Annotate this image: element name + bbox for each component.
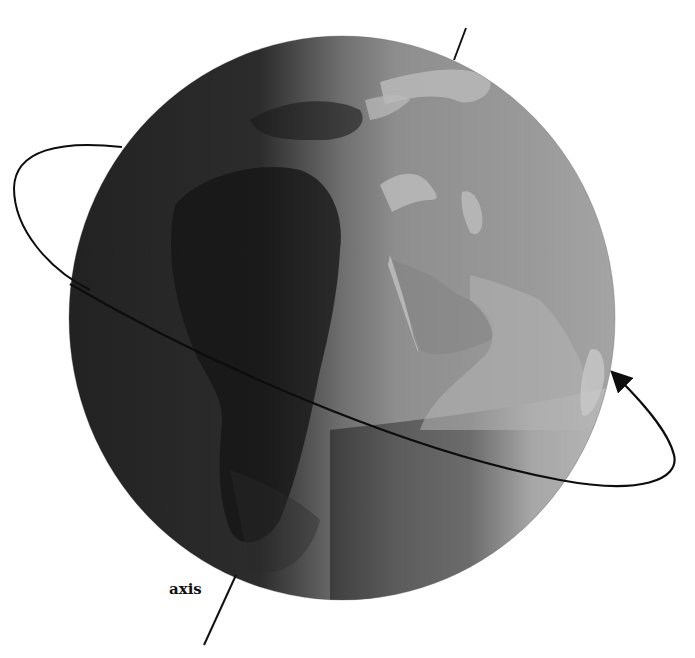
globe — [69, 36, 640, 640]
diagram-canvas — [0, 0, 695, 658]
axis-line-bottom — [204, 575, 236, 645]
axis-line-top — [454, 28, 466, 60]
axis-label: axis — [169, 580, 202, 598]
